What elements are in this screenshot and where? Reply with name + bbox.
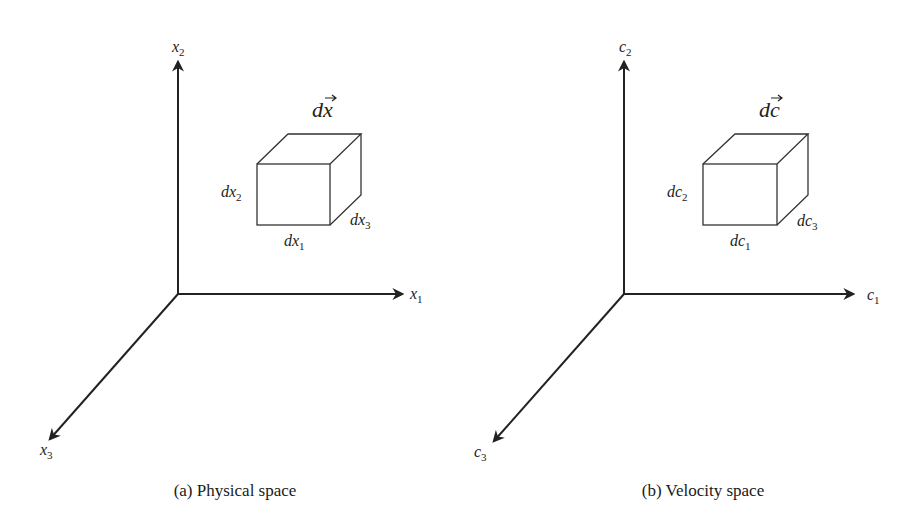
dc1-label: dc1 xyxy=(730,232,751,252)
dc-vector-label: dc xyxy=(759,97,780,122)
c3-axis-label: c3 xyxy=(474,443,487,463)
x3-axis-label: x3 xyxy=(39,441,53,461)
volume-element-box xyxy=(703,134,808,225)
dc3-label: dc3 xyxy=(797,212,818,232)
dx3-label: dx3 xyxy=(350,211,371,231)
dc2-label: dc2 xyxy=(667,183,688,203)
x3-axis xyxy=(50,294,178,439)
caption-physical-space: (a) Physical space xyxy=(174,481,297,500)
panel-physical-space: x2 x1 x3 dx dx2 dx1 dx3 (a) Physical spa… xyxy=(39,38,423,500)
volume-element-box xyxy=(257,134,361,225)
caption-velocity-space: (b) Velocity space xyxy=(642,481,764,500)
panel-velocity-space: c2 c1 c3 dc dc2 dc1 dc3 (b) Velocity spa… xyxy=(474,38,880,500)
dx1-label: dx1 xyxy=(284,232,305,252)
dx2-label: dx2 xyxy=(221,183,242,203)
figure-canvas: x2 x1 x3 dx dx2 dx1 dx3 (a) Physical spa… xyxy=(0,0,914,523)
c1-axis-label: c1 xyxy=(867,286,880,306)
c3-axis xyxy=(494,294,624,441)
x2-axis-label: x2 xyxy=(171,38,185,58)
c2-axis-label: c2 xyxy=(619,38,632,58)
x1-axis-label: x1 xyxy=(409,285,423,305)
dx-vector-label: dx xyxy=(312,97,333,122)
